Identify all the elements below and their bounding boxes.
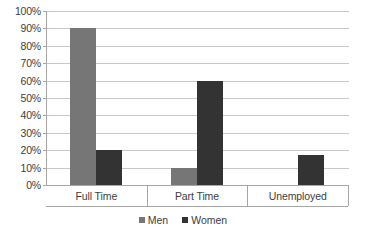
bar-unemployed-women	[298, 155, 324, 185]
category-separator	[247, 186, 248, 206]
bar-group	[247, 11, 348, 185]
y-axis: 100%90%80%70%60%50%40%30%20%10%0%	[0, 0, 44, 200]
y-axis-tick-label: 0%	[26, 180, 41, 191]
y-axis-tick-label: 20%	[21, 145, 41, 156]
plot-wrapper: 100%90%80%70%60%50%40%30%20%10%0%	[0, 0, 366, 200]
legend-item-women[interactable]: Women	[182, 214, 227, 226]
chart-legend: MenWomen	[0, 214, 366, 226]
bar-full-time-men	[70, 28, 96, 185]
category-label: Full Time	[46, 186, 147, 206]
category-axis: Full TimePart TimeUnemployed	[46, 185, 348, 207]
legend-label: Men	[148, 214, 168, 226]
y-axis-tick-label: 50%	[21, 93, 41, 104]
bars-layer	[46, 11, 348, 185]
y-axis-tick-label: 10%	[21, 162, 41, 173]
category-separator	[348, 186, 349, 206]
y-axis-tick-label: 40%	[21, 110, 41, 121]
bar-chart: 100%90%80%70%60%50%40%30%20%10%0% Full T…	[0, 0, 366, 241]
bar-group	[46, 11, 147, 185]
y-axis-tick-label: 30%	[21, 128, 41, 139]
category-label: Part Time	[147, 186, 248, 206]
legend-swatch-icon	[139, 217, 145, 223]
category-separator	[147, 186, 148, 206]
y-axis-tick-label: 70%	[21, 58, 41, 69]
y-axis-tick-label: 90%	[21, 23, 41, 34]
bar-group	[147, 11, 248, 185]
bar-full-time-women	[96, 150, 122, 185]
y-axis-tick-label: 100%	[15, 6, 41, 17]
category-label: Unemployed	[247, 186, 348, 206]
bar-part-time-men	[171, 168, 197, 185]
legend-swatch-icon	[182, 217, 188, 223]
legend-label: Women	[191, 214, 227, 226]
y-axis-tick-label: 80%	[21, 41, 41, 52]
bar-part-time-women	[197, 81, 223, 185]
y-axis-tick-label: 60%	[21, 75, 41, 86]
legend-item-men[interactable]: Men	[139, 214, 168, 226]
